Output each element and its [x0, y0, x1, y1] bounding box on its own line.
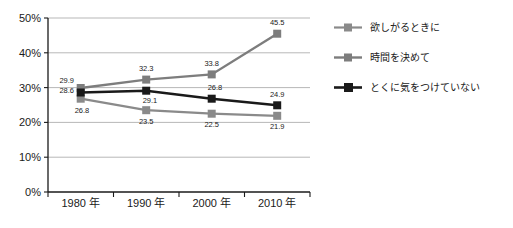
- data-point-marker: [208, 95, 216, 103]
- legend-item-hoshigaru-tokini[interactable]: 欲しがるときに: [334, 21, 440, 33]
- data-label-1980-mid: 28.6: [59, 86, 74, 95]
- series-line-jikan-wo-kimete: [81, 34, 278, 88]
- data-point-marker: [208, 110, 216, 118]
- data-point-marker: [208, 70, 216, 78]
- chart-container: 50% 40% 30% 20% 10% 0% 1980 年 1990 年 200…: [0, 0, 513, 228]
- data-point-marker: [142, 106, 150, 114]
- y-axis-labels: 50% 40% 30% 20% 10% 0%: [19, 12, 41, 198]
- legend-marker-icon: [344, 83, 353, 92]
- data-label-1980-top: 29.9: [59, 76, 74, 85]
- y-axis-label-30: 30%: [19, 82, 41, 94]
- data-label-2010-mid: 24.9: [270, 90, 285, 99]
- data-point-marker: [273, 30, 281, 38]
- legend-label-jikan-wo-kimete: 時間を決めて: [370, 52, 430, 63]
- legend-item-tokuni-ki-wo-tsuketeinai[interactable]: とくに気をつけていない: [334, 81, 480, 93]
- data-label-1990-bottom: 23.5: [139, 117, 154, 126]
- data-label-1980-bottom: 26.8: [75, 106, 90, 115]
- series-jikan-wo-kimete: [77, 30, 282, 92]
- data-label-2000-top: 33.8: [204, 59, 219, 68]
- legend-label-hoshigaru-tokini: 欲しがるときに: [370, 21, 440, 33]
- legend-label-tokuni-ki-wo-tsuketeinai: とくに気をつけていない: [370, 81, 480, 93]
- data-label-2000-mid: 26.8: [208, 83, 223, 92]
- data-point-marker: [273, 112, 281, 120]
- series-hoshigaru-tokini: [77, 95, 282, 120]
- data-label-1990-mid: 29.1: [143, 96, 158, 105]
- x-axis-label-1980: 1980 年: [61, 196, 100, 209]
- data-point-marker: [77, 89, 85, 97]
- data-point-marker: [273, 101, 281, 109]
- legend-item-jikan-wo-kimete[interactable]: 時間を決めて: [334, 52, 430, 63]
- line-chart: 50% 40% 30% 20% 10% 0% 1980 年 1990 年 200…: [0, 0, 513, 228]
- y-axis-label-10: 10%: [19, 151, 41, 163]
- data-label-2010-bottom: 21.9: [270, 122, 285, 131]
- data-label-2010-top: 45.5: [270, 18, 285, 27]
- series-tokuni-ki-wo-tsuketeinai: [77, 87, 282, 110]
- data-label-1990-top: 32.3: [139, 64, 154, 73]
- data-point-marker: [142, 76, 150, 84]
- y-axis-label-20: 20%: [19, 116, 41, 128]
- data-point-marker: [142, 87, 150, 95]
- data-label-2000-bottom: 22.5: [204, 120, 219, 129]
- x-axis-label-2010: 2010 年: [258, 196, 297, 209]
- legend-marker-icon: [344, 24, 352, 32]
- y-axis-label-0: 0%: [25, 186, 41, 198]
- y-axis-label-40: 40%: [19, 47, 41, 59]
- x-axis-label-1990: 1990 年: [127, 196, 166, 209]
- x-axis-labels: 1980 年 1990 年 2000 年 2010 年: [61, 196, 296, 209]
- legend-marker-icon: [344, 54, 352, 62]
- y-axis-label-50: 50%: [19, 12, 41, 24]
- chart-legend: 欲しがるときに 時間を決めて とくに気をつけていない: [334, 21, 480, 93]
- x-axis-label-2000: 2000 年: [192, 196, 231, 209]
